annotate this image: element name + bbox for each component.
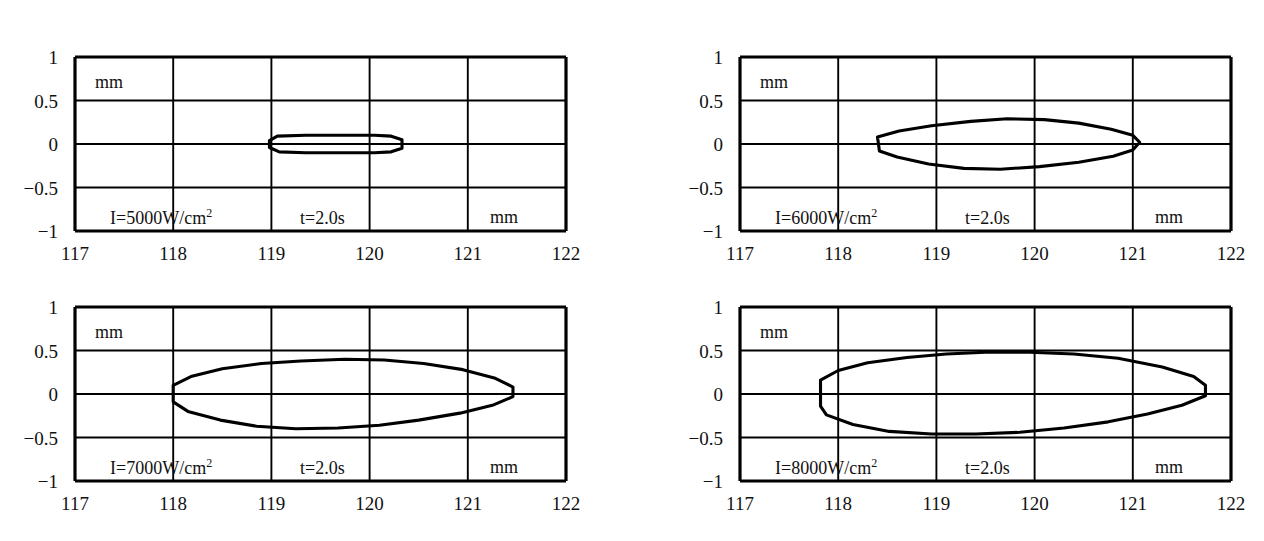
time-label: t=2.0s (300, 208, 345, 228)
time-label: t=2.0s (965, 208, 1010, 228)
xtick-label: 119 (923, 243, 951, 264)
axis-unit-top: mm (760, 322, 788, 342)
xtick-label: 119 (258, 493, 286, 514)
intensity-label: I=6000W/cm2 (775, 206, 877, 228)
xtick-label: 118 (824, 243, 852, 264)
panel-6000-grid (740, 57, 1231, 231)
axis-unit-top: mm (95, 322, 123, 342)
time-label: t=2.0s (300, 458, 345, 478)
axis-unit-right: mm (490, 457, 518, 477)
xtick-label: 121 (454, 243, 483, 264)
chart-panel-6000: 1 0.5 0 −0.5 −1 mm mm I (665, 20, 1264, 270)
xtick-label: 117 (726, 243, 754, 264)
ytick-label: 0.5 (34, 91, 58, 112)
ytick-label: −0.5 (24, 428, 58, 449)
xtick-label: 117 (61, 493, 89, 514)
intensity-label: I=5000W/cm2 (110, 206, 212, 228)
panel-7000-ylabels: 1 0.5 0 −0.5 −1 (24, 297, 58, 492)
xtick-label: 119 (258, 243, 286, 264)
panel-7000-xlabels: 117 118 119 120 121 122 (61, 493, 580, 514)
ytick-label: −1 (703, 471, 723, 492)
xtick-label: 120 (1020, 493, 1049, 514)
chart-panel-7000: 1 0.5 0 −0.5 −1 mm mm I (0, 270, 620, 520)
panel-5000-xlabels: 117 118 119 120 121 122 (61, 243, 580, 264)
panel-8000-ylabels: 1 0.5 0 −0.5 −1 (689, 297, 723, 492)
xtick-label: 122 (552, 493, 581, 514)
ytick-label: 0.5 (699, 341, 723, 362)
chart-panel-8000: 1 0.5 0 −0.5 −1 mm mm I (665, 270, 1264, 520)
xtick-label: 119 (923, 493, 951, 514)
panel-5000-svg: 1 0.5 0 −0.5 −1 mm mm I (0, 20, 620, 270)
panel-5000-grid (75, 57, 566, 231)
figure-container: 1 0.5 0 −0.5 −1 mm mm I (0, 0, 1264, 541)
panel-6000-ylabels: 1 0.5 0 −0.5 −1 (689, 47, 723, 242)
xtick-label: 120 (355, 493, 384, 514)
xtick-label: 122 (1217, 243, 1246, 264)
xtick-label: 120 (355, 243, 384, 264)
ytick-label: −1 (703, 221, 723, 242)
xtick-label: 118 (159, 243, 187, 264)
axis-unit-top: mm (760, 72, 788, 92)
axis-unit-top: mm (95, 72, 123, 92)
xtick-label: 117 (61, 243, 89, 264)
panel-7000-svg: 1 0.5 0 −0.5 −1 mm mm I (0, 270, 620, 520)
ytick-label: 1 (49, 47, 59, 68)
axis-unit-right: mm (490, 207, 518, 227)
intensity-label: I=8000W/cm2 (775, 456, 877, 478)
xtick-label: 121 (1119, 493, 1148, 514)
ytick-label: 0 (49, 134, 59, 155)
panel-8000-xlabels: 117 118 119 120 121 122 (726, 493, 1245, 514)
axis-unit-right: mm (1155, 207, 1183, 227)
ytick-label: 1 (714, 297, 724, 318)
ytick-label: 0.5 (699, 91, 723, 112)
ytick-label: −0.5 (689, 178, 723, 199)
ytick-label: −0.5 (24, 178, 58, 199)
ytick-label: −1 (38, 471, 58, 492)
ytick-label: 0 (49, 384, 59, 405)
ytick-label: 1 (49, 297, 59, 318)
panel-8000-svg: 1 0.5 0 −0.5 −1 mm mm I (665, 270, 1264, 520)
ytick-label: −0.5 (689, 428, 723, 449)
panel-5000-ylabels: 1 0.5 0 −0.5 −1 (24, 47, 58, 242)
panel-7000-grid (75, 307, 566, 481)
xtick-label: 121 (454, 493, 483, 514)
chart-panel-5000: 1 0.5 0 −0.5 −1 mm mm I (0, 20, 620, 270)
panel-6000-xlabels: 117 118 119 120 121 122 (726, 243, 1245, 264)
time-label: t=2.0s (965, 458, 1010, 478)
xtick-label: 122 (1217, 493, 1246, 514)
ytick-label: 1 (714, 47, 724, 68)
axis-unit-right: mm (1155, 457, 1183, 477)
xtick-label: 122 (552, 243, 581, 264)
xtick-label: 117 (726, 493, 754, 514)
panel-6000-svg: 1 0.5 0 −0.5 −1 mm mm I (665, 20, 1264, 270)
ytick-label: 0.5 (34, 341, 58, 362)
xtick-label: 121 (1119, 243, 1148, 264)
ytick-label: 0 (714, 134, 724, 155)
intensity-label: I=7000W/cm2 (110, 456, 212, 478)
xtick-label: 118 (824, 493, 852, 514)
xtick-label: 120 (1020, 243, 1049, 264)
ytick-label: 0 (714, 384, 724, 405)
xtick-label: 118 (159, 493, 187, 514)
caption-strip (0, 534, 1264, 541)
panel-8000-grid (740, 307, 1231, 481)
ytick-label: −1 (38, 221, 58, 242)
